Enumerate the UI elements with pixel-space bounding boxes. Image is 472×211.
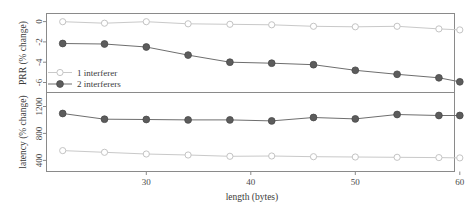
data-point — [269, 153, 275, 159]
data-point — [436, 74, 443, 81]
prr-panel: 0 -2 -4 -6 PRR (% change) — [18, 19, 463, 90]
data-point — [143, 19, 149, 25]
prr-ytick-label: -6 — [34, 78, 44, 86]
data-point — [101, 116, 108, 123]
data-point — [436, 155, 442, 161]
data-point — [60, 19, 66, 25]
data-point — [269, 22, 275, 28]
chart-legend: 1 interferer 2 interferers — [48, 68, 121, 90]
data-point — [185, 152, 191, 158]
data-point — [310, 114, 317, 121]
data-point — [268, 60, 275, 67]
latency-panel-frame — [47, 93, 455, 172]
latency-y-axis: 1200 800 400 — [34, 97, 46, 167]
latency-panel: 1200 800 400 latency (% change) — [18, 95, 463, 168]
data-point — [227, 21, 233, 27]
latency-axis-title: latency (% change) — [18, 95, 29, 168]
data-point — [101, 20, 107, 26]
latency-series-2-interferers-markers — [59, 110, 463, 124]
data-point — [436, 112, 443, 119]
data-point — [101, 41, 108, 48]
xtick-label: 60 — [455, 177, 465, 187]
prr-axis-title: PRR (% change) — [18, 21, 29, 85]
prr-ytick-label: 0 — [34, 19, 44, 24]
data-point — [310, 23, 316, 29]
x-axis-title: length (bytes) — [226, 192, 279, 203]
data-point — [352, 67, 359, 74]
latency-ytick-label: 1200 — [34, 97, 44, 116]
data-point — [143, 44, 150, 51]
xtick-label: 40 — [246, 177, 256, 187]
data-point — [101, 149, 107, 155]
chart-figure: 0 -2 -4 -6 PRR (% change) — [0, 0, 472, 211]
data-point — [185, 117, 192, 124]
x-axis: 30 40 50 60 length (bytes) — [142, 172, 465, 204]
data-point — [143, 151, 149, 157]
latency-ytick-label: 400 — [34, 153, 44, 167]
data-point — [59, 40, 66, 47]
data-point — [227, 59, 234, 66]
data-point — [394, 71, 401, 78]
data-point — [60, 148, 66, 154]
prr-ytick-label: -4 — [34, 58, 44, 66]
data-point — [394, 111, 401, 118]
legend-swatch-marker-2-interferers — [57, 81, 64, 88]
data-point — [352, 116, 359, 123]
data-point — [394, 23, 400, 29]
data-point — [185, 21, 191, 27]
data-point — [185, 52, 192, 59]
prr-series-1-interferer-markers — [60, 19, 463, 33]
data-point — [456, 112, 463, 119]
xtick-label: 30 — [142, 177, 152, 187]
data-point — [268, 118, 275, 125]
data-point — [457, 27, 463, 33]
data-point — [227, 153, 233, 159]
data-point — [352, 154, 358, 160]
data-point — [394, 154, 400, 160]
data-point — [436, 26, 442, 32]
prr-y-axis: 0 -2 -4 -6 — [34, 19, 46, 86]
data-point — [310, 154, 316, 160]
latency-series-1-interferer-markers — [60, 148, 463, 161]
legend-label-2-interferers: 2 interferers — [77, 79, 121, 89]
latency-ytick-label: 800 — [34, 126, 44, 140]
data-point — [143, 116, 150, 123]
legend-label-1-interferer: 1 interferer — [77, 68, 117, 78]
data-point — [227, 117, 234, 124]
xtick-label: 50 — [351, 177, 361, 187]
legend-swatch-marker-1-interferer — [57, 69, 63, 75]
data-point — [457, 155, 463, 161]
data-point — [59, 110, 66, 117]
prr-ytick-label: -2 — [34, 38, 44, 46]
data-point — [310, 61, 317, 68]
chart-svg: 0 -2 -4 -6 PRR (% change) — [0, 0, 472, 211]
data-point — [352, 24, 358, 30]
data-point — [456, 78, 463, 85]
